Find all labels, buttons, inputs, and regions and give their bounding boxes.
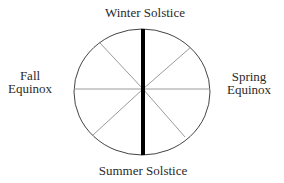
summer-solstice-label: Summer Solstice (93, 164, 193, 177)
fall-equinox-line2: Equinox (0, 82, 60, 95)
diagonal-spoke-lower-right (143, 89, 185, 137)
winter-solstice-label: Winter Solstice (95, 6, 195, 19)
diagonal-spoke-lower-left (93, 89, 143, 135)
spring-equinox-label: Spring Equinox (219, 70, 279, 96)
diagonal-spoke-upper-right (143, 47, 191, 89)
seasonal-wheel-diagram: Winter Solstice Summer Solstice Fall Equ… (0, 0, 284, 183)
fall-equinox-label: Fall Equinox (0, 69, 60, 95)
spring-equinox-line2: Equinox (219, 83, 279, 96)
diagonal-spoke-upper-left (100, 43, 143, 89)
